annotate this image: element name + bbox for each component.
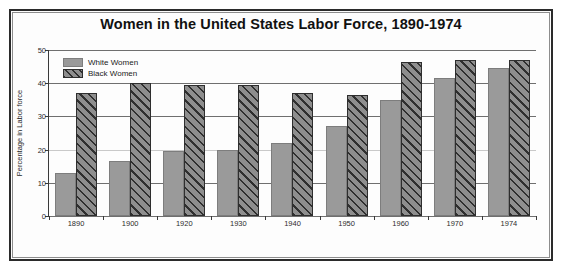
chart-legend: White Women Black Women: [62, 56, 141, 80]
bar-group-1940: [265, 50, 319, 216]
bar-white-women-1890: [55, 173, 76, 216]
legend-item-white-women: White Women: [63, 57, 138, 68]
bar-white-women-1900: [109, 161, 130, 216]
x-tick-mark-end: [536, 216, 537, 220]
x-tick-label-1974: 1974: [482, 219, 536, 228]
bar-black-women-1920: [184, 85, 205, 216]
bar-white-women-1930: [217, 150, 238, 216]
y-tick-label-40: 40: [38, 79, 46, 88]
x-tick-label-1940: 1940: [265, 219, 319, 228]
gridline-0: [49, 216, 536, 217]
bar-black-women-1950: [347, 95, 368, 216]
bar-white-women-1920: [163, 151, 184, 216]
y-tick-label-30: 30: [38, 112, 46, 121]
y-tick-label-20: 20: [38, 145, 46, 154]
y-tick-label-0: 0: [42, 212, 46, 221]
y-tick-label-10: 10: [38, 178, 46, 187]
bar-black-women-1890: [76, 93, 97, 216]
chart-title: Women in the United States Labor Force, …: [14, 16, 548, 32]
legend-item-black-women: Black Women: [63, 68, 138, 79]
bar-white-women-1950: [326, 126, 347, 216]
x-tick-label-1930: 1930: [211, 219, 265, 228]
legend-label-white-women: White Women: [88, 58, 138, 67]
y-tick-label-50: 50: [38, 46, 46, 55]
y-axis-title: Percentage in Labor force: [15, 90, 24, 176]
x-tick-label-1960: 1960: [374, 219, 428, 228]
bar-black-women-1900: [130, 83, 151, 216]
bar-white-women-1970: [434, 78, 455, 216]
bar-white-women-1974: [488, 68, 509, 216]
bar-black-women-1960: [401, 62, 422, 216]
bar-group-1920: [157, 50, 211, 216]
bar-white-women-1940: [271, 143, 292, 216]
x-tick-label-1890: 1890: [49, 219, 103, 228]
bar-group-1960: [374, 50, 428, 216]
x-tick-label-1920: 1920: [157, 219, 211, 228]
chart-figure: Women in the United States Labor Force, …: [0, 0, 562, 271]
x-axis-tick-labels: 189019001920193019401950196019701974: [49, 219, 536, 228]
bar-white-women-1960: [380, 100, 401, 216]
x-tick-label-1970: 1970: [428, 219, 482, 228]
legend-swatch-white-women-icon: [63, 58, 83, 67]
bar-black-women-1940: [292, 93, 313, 216]
bar-group-1930: [211, 50, 265, 216]
bar-group-1974: [482, 50, 536, 216]
legend-swatch-black-women-icon: [63, 69, 83, 78]
legend-label-black-women: Black Women: [88, 69, 137, 78]
x-tick-label-1900: 1900: [103, 219, 157, 228]
bar-black-women-1974: [509, 60, 530, 216]
bar-group-1970: [428, 50, 482, 216]
bar-black-women-1970: [455, 60, 476, 216]
bar-black-women-1930: [238, 85, 259, 216]
x-tick-label-1950: 1950: [320, 219, 374, 228]
bar-group-1950: [320, 50, 374, 216]
